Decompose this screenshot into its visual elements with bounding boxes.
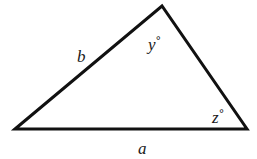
angle-z-label: z° — [211, 107, 224, 127]
triangle-diagram: b a y° z° — [0, 0, 257, 159]
angle-y-label: y° — [146, 34, 161, 54]
side-b-label: b — [77, 47, 86, 66]
side-a-label: a — [138, 139, 147, 158]
